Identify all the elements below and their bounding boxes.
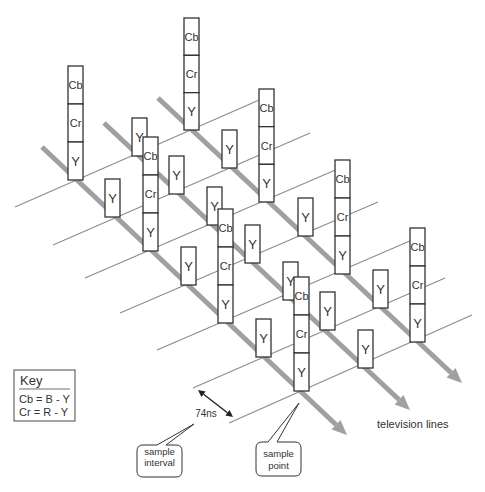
- y-label: Y: [297, 365, 306, 380]
- cr-label: Cr: [70, 117, 82, 129]
- y-label: Y: [248, 237, 257, 252]
- cb-label: Cb: [143, 150, 157, 162]
- sample-chroma-stack: Cb Cr Y: [335, 160, 350, 274]
- callout-line-1: sample: [263, 448, 294, 459]
- cr-label: Cr: [186, 68, 198, 80]
- sample-chroma-stack: Cb Cr Y: [218, 209, 233, 323]
- sample-chroma-stack: Cb Cr Y: [410, 228, 425, 342]
- callout-line-2: interval: [144, 457, 175, 468]
- sample-luma-box: Y: [169, 156, 184, 194]
- television-lines-label: television lines: [377, 418, 449, 430]
- sample-luma-box: Y: [298, 198, 313, 236]
- cb-label: Cb: [294, 290, 308, 302]
- cb-label: Cb: [335, 173, 349, 185]
- sample-chroma-stack: Cb Cr Y: [184, 18, 199, 130]
- arrowhead-icon: [225, 410, 233, 417]
- sample-luma-box: Y: [222, 130, 237, 168]
- y-label: Y: [172, 168, 181, 183]
- sample-chroma-stack: Cb Cr Y: [259, 89, 274, 202]
- y-label: Y: [413, 316, 422, 331]
- cb-label: Cb: [218, 222, 232, 234]
- y-label: Y: [221, 297, 230, 312]
- cb-label: Cb: [184, 31, 198, 43]
- cb-label: Cb: [259, 102, 273, 114]
- sample-luma-box: Y: [320, 292, 335, 330]
- sample-luma-box: Y: [373, 270, 388, 308]
- key-title: Key: [20, 373, 43, 388]
- cb-label: Cb: [68, 79, 82, 91]
- y-label: Y: [301, 210, 310, 225]
- y-label: Y: [338, 248, 347, 263]
- key-legend: Key Cb = B - Y Cr = R - Y: [14, 370, 75, 421]
- sample-chroma-stack: Cb Cr Y: [294, 277, 309, 391]
- y-label: Y: [323, 304, 332, 319]
- sample-luma-box: Y: [181, 247, 196, 285]
- sample-interval-dimension: 74ns: [195, 390, 233, 419]
- interval-value: 74ns: [195, 408, 217, 419]
- callout-sample-interval: sample interval: [137, 424, 194, 477]
- y-label: Y: [225, 142, 234, 157]
- y-label: Y: [108, 191, 117, 206]
- sample-chroma-stack: Cb Cr Y: [68, 66, 83, 180]
- cr-label: Cr: [220, 260, 232, 272]
- sample-luma-box: Y: [105, 179, 120, 217]
- key-entry-cr: Cr = R - Y: [19, 406, 69, 418]
- sample-luma-box: Y: [358, 330, 373, 368]
- y-label: Y: [146, 225, 155, 240]
- y-label: Y: [184, 259, 193, 274]
- television-line-arrows: [42, 98, 462, 435]
- y-label: Y: [376, 282, 385, 297]
- sample-chroma-stack: Cb Cr Y: [143, 137, 158, 251]
- y-label: Y: [361, 342, 370, 357]
- y-label: Y: [259, 331, 268, 346]
- sample-luma-box: Y: [245, 225, 260, 263]
- cr-label: Cr: [337, 211, 349, 223]
- cr-label: Cr: [296, 328, 308, 340]
- callout-line-1: sample: [144, 446, 175, 457]
- y-label: Y: [262, 176, 271, 191]
- cb-label: Cb: [410, 241, 424, 253]
- cr-label: Cr: [261, 140, 273, 152]
- arrowhead-icon: [198, 390, 206, 397]
- sample-luma-box: Y: [256, 319, 271, 357]
- callout-sample-point: sample point: [256, 403, 301, 476]
- callout-line-2: point: [268, 460, 289, 471]
- cr-label: Cr: [145, 188, 157, 200]
- key-entry-cb: Cb = B - Y: [19, 393, 71, 405]
- y-label: Y: [187, 104, 196, 119]
- sampling-diagram: Cb Cr Y Y Y Cb Cr Y Y: [0, 0, 485, 492]
- y-label: Y: [71, 154, 80, 169]
- cr-label: Cr: [412, 279, 424, 291]
